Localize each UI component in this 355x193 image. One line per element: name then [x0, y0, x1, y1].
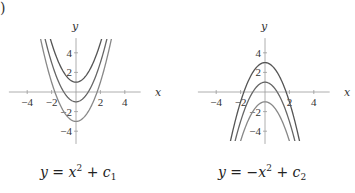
- caption-eq: = −: [226, 164, 258, 180]
- x-tick-label: 4: [122, 96, 128, 108]
- x-axis-label: x: [155, 86, 162, 99]
- caption-lhs: y: [40, 164, 48, 180]
- y-tick-label: −4: [60, 125, 72, 137]
- x-tick-label: 2: [98, 96, 104, 108]
- caption-eq: =: [48, 164, 69, 180]
- y-tick-label: −4: [249, 125, 261, 137]
- x-axis-label: x: [344, 86, 351, 99]
- caption-plus: +: [82, 164, 103, 180]
- y-tick-label: 4: [256, 47, 262, 59]
- y-tick-label: 4: [67, 47, 73, 59]
- x-tick-label: 4: [311, 96, 317, 108]
- caption-lhs: y: [218, 164, 226, 180]
- caption-sub: 2: [300, 172, 306, 182]
- y-axis-label: y: [260, 20, 268, 33]
- caption-c: c: [103, 164, 111, 180]
- y-axis-label: y: [71, 20, 79, 33]
- x-tick-label: −4: [21, 96, 33, 108]
- plot-left: −4−224−4−224xy: [9, 0, 162, 144]
- x-tick-label: −4: [210, 96, 222, 108]
- caption-sub: 1: [111, 172, 117, 182]
- caption-left: y = x2 + c1: [40, 163, 116, 182]
- caption-plus: +: [272, 164, 293, 180]
- caption-right: y = −x2 + c2: [218, 163, 306, 182]
- x-tick-label: −2: [46, 96, 58, 108]
